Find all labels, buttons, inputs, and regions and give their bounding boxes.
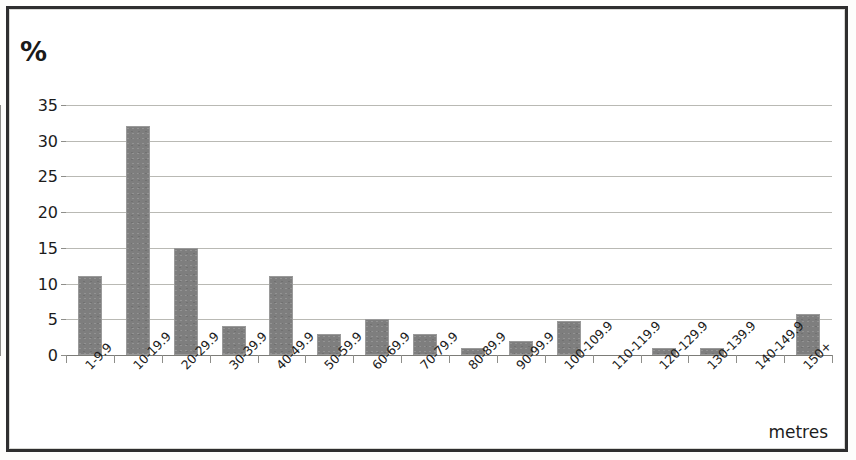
x-axis-title: metres (768, 422, 828, 442)
bar (78, 276, 102, 355)
y-axis-line (0, 105, 1, 356)
y-axis-tick-label: 35 (22, 96, 58, 115)
gridline (66, 176, 832, 177)
bar (126, 126, 150, 355)
x-axis-tick-mark (832, 355, 833, 363)
y-axis-tick-label: 10 (22, 275, 58, 294)
y-axis-tick-labels: 05101520253035 (16, 105, 58, 355)
y-axis-tick-label: 25 (22, 167, 58, 186)
plot-area (66, 105, 832, 355)
y-axis-unit-label: % (20, 36, 47, 67)
bar (174, 248, 198, 355)
y-axis-tick-label: 20 (22, 203, 58, 222)
y-axis-tick-label: 5 (22, 310, 58, 329)
y-axis-tick-label: 15 (22, 239, 58, 258)
y-axis-tick-label: 30 (22, 132, 58, 151)
y-axis-tick-label: 0 (22, 346, 58, 365)
gridline (66, 141, 832, 142)
gridline (66, 212, 832, 213)
gridline (66, 105, 832, 106)
chart-page: % 05101520253035 1-9.910-19.920-29.930-3… (0, 0, 856, 460)
x-axis-category-labels: 1-9.910-19.920-29.930-39.940-49.950-59.9… (66, 362, 832, 432)
